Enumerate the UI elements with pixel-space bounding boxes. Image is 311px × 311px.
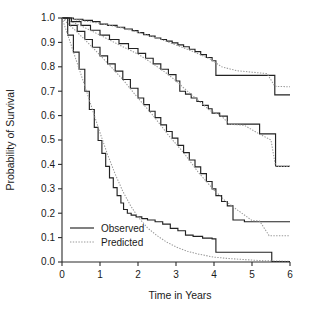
survival-chart-svg: 0.00.10.20.30.40.50.60.70.80.91.0 Probab…	[0, 0, 311, 311]
y-tick-label: 0.3	[41, 183, 55, 194]
x-tick-label: 1	[97, 269, 103, 280]
survival-chart-figure: 0.00.10.20.30.40.50.60.70.80.91.0 Probab…	[0, 0, 311, 311]
y-tick-label: 0.9	[41, 37, 55, 48]
series-layer	[62, 18, 290, 262]
y-tick-label: 0.4	[41, 159, 55, 170]
x-tick-label: 4	[211, 269, 217, 280]
series-line	[62, 18, 290, 166]
series-line	[62, 18, 290, 166]
plot-area	[62, 18, 290, 262]
series-line	[62, 18, 290, 262]
y-axis-title: Probability of Survival	[4, 90, 16, 191]
series-line	[62, 18, 290, 95]
x-axis-ticks: 0123456	[59, 262, 293, 280]
legend-label: Observed	[101, 223, 144, 234]
x-tick-label: 5	[249, 269, 255, 280]
y-tick-label: 0.0	[41, 256, 55, 267]
x-tick-label: 2	[135, 269, 141, 280]
y-tick-label: 0.5	[41, 134, 55, 145]
legend-label: Predicted	[101, 237, 143, 248]
x-axis-title: Time in Years	[148, 289, 211, 301]
y-tick-label: 0.6	[41, 110, 55, 121]
x-axis: 0123456 Time in Years	[59, 262, 293, 301]
x-tick-label: 6	[287, 269, 293, 280]
y-tick-label: 0.1	[41, 232, 55, 243]
y-tick-label: 0.7	[41, 86, 55, 97]
chart-legend: ObservedPredicted	[70, 223, 144, 248]
y-tick-label: 1.0	[41, 12, 55, 23]
x-tick-label: 0	[59, 269, 65, 280]
series-line	[62, 18, 290, 261]
y-tick-label: 0.8	[41, 61, 55, 72]
y-axis: 0.00.10.20.30.40.50.60.70.80.91.0 Probab…	[4, 12, 62, 267]
y-tick-label: 0.2	[41, 208, 55, 219]
x-tick-label: 3	[173, 269, 179, 280]
y-axis-ticks: 0.00.10.20.30.40.50.60.70.80.91.0	[41, 12, 62, 267]
